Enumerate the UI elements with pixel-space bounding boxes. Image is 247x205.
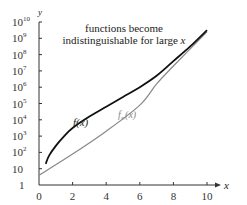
y-tick-label: 10 — [12, 163, 24, 175]
y-tick-label: 1010 — [12, 15, 31, 28]
y-tick-label: 105 — [12, 97, 27, 110]
y-tick-label: 103 — [12, 129, 27, 142]
y-tick-label: 102 — [12, 145, 27, 158]
y-ticks: 1101021031041051061071081091010 — [12, 15, 42, 191]
y-tick-label: 109 — [12, 31, 27, 44]
y-tick-label: 107 — [12, 64, 27, 77]
y-axis-label: y — [37, 7, 42, 17]
x-axis-label: x — [223, 179, 229, 191]
f-series-label: f(x) — [73, 116, 89, 129]
x-tick-label: 8 — [171, 190, 177, 202]
y-tick-label: 1 — [19, 179, 25, 191]
x-axis-arrow-icon — [215, 183, 221, 188]
series-f-line — [46, 30, 207, 164]
f-infinity-series-label: f∞(x) — [118, 109, 137, 121]
annotation-line-2-var: x — [180, 34, 186, 46]
x-tick-label: 0 — [36, 190, 42, 202]
y-tick-label: 104 — [12, 113, 27, 126]
x-tick-label: 6 — [137, 190, 143, 202]
x-tick-label: 2 — [70, 190, 76, 202]
y-tick-label: 106 — [12, 80, 27, 93]
x-tick-label: 10 — [202, 190, 214, 202]
x-tick-label: 4 — [103, 190, 109, 202]
f-infinity-arg: (x) — [125, 109, 137, 121]
annotation-line-1: functions become — [85, 22, 163, 34]
y-tick-label: 108 — [12, 48, 27, 61]
annotation-line-2: indistinguishable for large x — [63, 34, 186, 46]
axes — [39, 22, 221, 188]
annotation-line-2-text: indistinguishable for large — [63, 34, 181, 46]
chart: 0246810 1101021031041051061071081091010 … — [0, 0, 247, 205]
